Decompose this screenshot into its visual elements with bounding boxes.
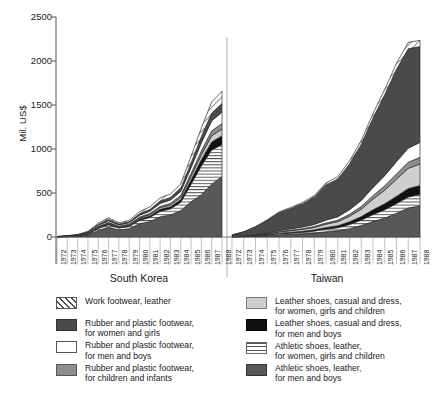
x-tick-label: 1986 (204, 250, 211, 265)
legend-swatch-work-footwear-leather (56, 297, 77, 309)
legend-column-right: Leather shoes, casual and dress, for wom… (246, 296, 432, 386)
x-tick-label: 1981 (152, 250, 159, 265)
x-tick-label: 1982 (352, 250, 359, 265)
x-tick-label: 1984 (376, 250, 383, 265)
legend-label-work-footwear-leather: Work footwear, leather (85, 296, 171, 306)
x-tick-label: 1979 (132, 250, 139, 265)
x-tick-label: 1977 (111, 250, 118, 265)
legend-item-rubber-plastic-men-boys: Rubber and plastic footwear, for men and… (56, 340, 236, 360)
panel-title-taiwan: Taiwan (232, 272, 422, 284)
panel-title-south-korea: South Korea (56, 272, 222, 284)
x-tick-label: 1973 (246, 250, 253, 265)
x-tick-label: 1980 (329, 250, 336, 265)
x-tick-label: 1981 (340, 250, 347, 265)
x-tick-label: 1977 (293, 250, 300, 265)
x-tick-label: 1975 (270, 250, 277, 265)
x-tick-label: 1987 (214, 250, 221, 265)
x-tick-label: 1978 (305, 250, 312, 265)
x-tick-label: 1985 (387, 250, 394, 265)
x-tick-label: 1988 (423, 250, 430, 265)
footwear-exports-stacked-area-figure: Mil. US$ 2500 2000 1500 1000 500 0 1 (0, 0, 433, 416)
x-tick-label: 1978 (121, 250, 128, 265)
legend-swatch-rubber-plastic-men-boys (56, 341, 77, 353)
x-tick-label: 1980 (142, 250, 149, 265)
legend-item-rubber-plastic-women-girls: Rubber and plastic footwear, for women a… (56, 318, 236, 338)
x-tick-label: 1984 (183, 250, 190, 265)
legend-label-athletic-leather-women-girls-children: Athletic shoes, leather, for women, girl… (275, 341, 385, 361)
x-tick-label: 1987 (411, 250, 418, 265)
x-tick-label: 1973 (70, 250, 77, 265)
x-tick-label: 1974 (80, 250, 87, 265)
legend-swatch-athletic-leather-men-boys (246, 364, 267, 376)
x-tick-label: 1975 (91, 250, 98, 265)
x-tick-label: 1985 (194, 250, 201, 265)
x-tick-label: 1972 (60, 250, 67, 265)
legend-label-leather-casual-men-boys: Leather shoes, casual and dress, for men… (275, 318, 402, 338)
legend-column-left: Work footwear, leather Rubber and plasti… (56, 296, 236, 385)
stacked-area-plot (0, 0, 433, 292)
legend-label-rubber-plastic-children-infants: Rubber and plastic footwear, for childre… (85, 363, 194, 383)
legend-swatch-rubber-plastic-children-infants (56, 364, 77, 376)
legend-item-rubber-plastic-children-infants: Rubber and plastic footwear, for childre… (56, 363, 236, 383)
legend-item-leather-casual-women-girls-children: Leather shoes, casual and dress, for wom… (246, 296, 432, 316)
legend-label-leather-casual-women-girls-children: Leather shoes, casual and dress, for wom… (275, 296, 402, 316)
legend-item-athletic-leather-men-boys: Athletic shoes, leather, for men and boy… (246, 363, 432, 383)
x-tick-label: 1976 (101, 250, 108, 265)
legend-item-work-footwear-leather: Work footwear, leather (56, 296, 236, 309)
legend-swatch-athletic-leather-women-girls-children (246, 342, 267, 354)
x-tick-label: 1982 (163, 250, 170, 265)
legend-item-leather-casual-men-boys: Leather shoes, casual and dress, for men… (246, 318, 432, 338)
chart-plot-region: Mil. US$ 2500 2000 1500 1000 500 0 1 (0, 0, 433, 292)
x-tick-label: 1988 (225, 250, 232, 265)
x-tick-label: 1983 (364, 250, 371, 265)
legend-label-rubber-plastic-men-boys: Rubber and plastic footwear, for men and… (85, 340, 194, 360)
x-tick-label: 1972 (235, 250, 242, 265)
x-tick-label: 1976 (282, 250, 289, 265)
x-tick-label: 1986 (399, 250, 406, 265)
x-tick-label: 1974 (258, 250, 265, 265)
legend-item-athletic-leather-women-girls-children: Athletic shoes, leather, for women, girl… (246, 341, 432, 361)
x-tick-label: 1983 (173, 250, 180, 265)
legend-swatch-leather-casual-men-boys (246, 319, 267, 331)
legend-swatch-rubber-plastic-women-girls (56, 319, 77, 331)
legend-label-athletic-leather-men-boys: Athletic shoes, leather, for men and boy… (275, 363, 361, 383)
x-tick-label: 1979 (317, 250, 324, 265)
legend-swatch-leather-casual-women-girls-children (246, 297, 267, 309)
legend: Work footwear, leather Rubber and plasti… (0, 296, 433, 404)
legend-label-rubber-plastic-women-girls: Rubber and plastic footwear, for women a… (85, 318, 194, 338)
